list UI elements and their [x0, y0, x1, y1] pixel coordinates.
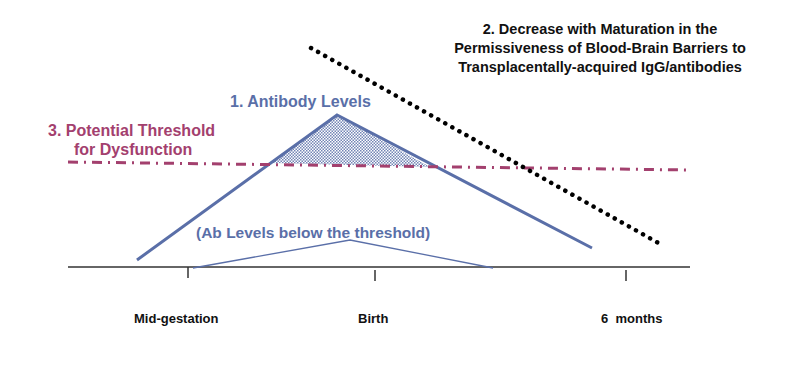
threshold-label: 3. Potential Threshold for Dysfunction — [48, 121, 215, 159]
threshold-label-line1: 3. Potential Threshold — [48, 121, 215, 140]
axis-label-birth: Birth — [358, 311, 388, 326]
axis-label-mid-gestation: Mid-gestation — [134, 311, 219, 326]
axis-label-6-months: 6 months — [601, 311, 662, 326]
below-threshold-curve — [193, 240, 493, 268]
bbb-decrease-label: 2. Decrease with Maturation in the Permi… — [430, 20, 770, 77]
antibody-levels-label: 1. Antibody Levels — [230, 93, 371, 111]
threshold-label-line2: for Dysfunction — [48, 140, 215, 159]
below-threshold-label: (Ab Levels below the threshold) — [196, 224, 430, 242]
